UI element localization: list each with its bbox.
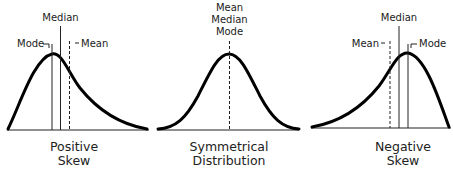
negative-skew-panel: Mean Median Mode Negative Skew — [311, 12, 451, 168]
positive-skew-curve — [8, 54, 147, 129]
symmetrical-mean-label: Mean — [216, 2, 243, 13]
negative-skew-curve — [312, 53, 449, 127]
positive-skew-caption-line1: Positive — [50, 139, 98, 154]
skewness-diagram: Mode Median Mean Positive Skew Mean Medi… — [0, 0, 453, 172]
negative-skew-mode-label: Mode — [419, 38, 446, 49]
negative-skew-caption-line2: Skew — [387, 153, 420, 168]
negative-skew-caption-line1: Negative — [375, 139, 431, 154]
positive-skew-panel: Mode Median Mean Positive Skew — [7, 12, 149, 168]
symmetrical-caption-line2: Distribution — [193, 153, 266, 168]
symmetrical-curve — [158, 54, 299, 129]
positive-skew-mean-label: Mean — [81, 38, 108, 49]
positive-skew-median-label: Median — [42, 12, 78, 23]
symmetrical-panel: Mean Median Mode Symmetrical Distributio… — [157, 2, 299, 168]
symmetrical-median-label: Median — [211, 14, 247, 25]
positive-skew-mode-label: Mode — [17, 38, 44, 49]
negative-skew-median-label: Median — [381, 12, 417, 23]
symmetrical-mode-label: Mode — [216, 26, 243, 37]
positive-skew-caption-line2: Skew — [58, 153, 91, 168]
negative-skew-mean-label: Mean — [352, 38, 379, 49]
negative-skew-mode-tick — [411, 44, 417, 48]
symmetrical-caption-line1: Symmetrical — [190, 139, 269, 154]
